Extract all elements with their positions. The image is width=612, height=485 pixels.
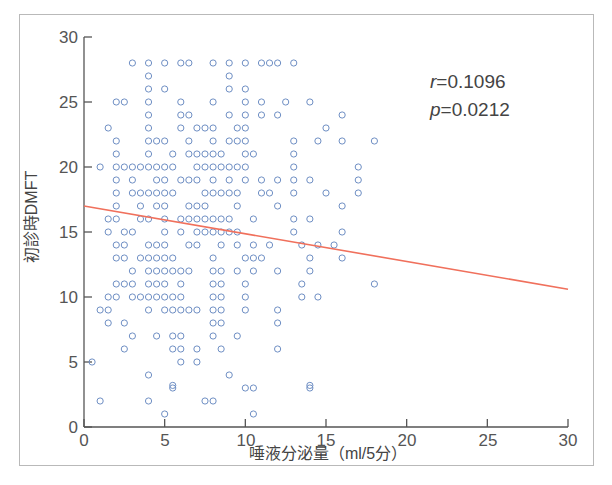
data-point — [307, 177, 313, 183]
data-point — [145, 125, 151, 131]
data-point — [186, 177, 192, 183]
data-point — [234, 203, 240, 209]
data-point — [275, 320, 281, 326]
data-point — [339, 229, 345, 235]
data-point — [162, 164, 168, 170]
data-point — [162, 86, 168, 92]
data-point — [178, 99, 184, 105]
data-point — [154, 255, 160, 261]
data-point — [154, 177, 160, 183]
data-point — [162, 60, 168, 66]
data-point — [145, 281, 151, 287]
data-point — [145, 138, 151, 144]
data-point — [194, 164, 200, 170]
data-point — [105, 125, 111, 131]
data-point — [291, 60, 297, 66]
data-point — [315, 294, 321, 300]
data-point — [186, 268, 192, 274]
data-point — [178, 359, 184, 365]
data-point — [242, 281, 248, 287]
data-point — [154, 138, 160, 144]
data-point — [129, 60, 135, 66]
data-point — [242, 60, 248, 66]
data-point — [145, 255, 151, 261]
data-point — [162, 177, 168, 183]
data-point — [234, 242, 240, 248]
data-point — [162, 307, 168, 313]
r-value: =0.1096 — [436, 71, 505, 92]
data-point — [145, 294, 151, 300]
data-point — [242, 112, 248, 118]
data-point — [258, 112, 264, 118]
data-point — [170, 151, 176, 157]
y-tick-label: 25 — [38, 93, 78, 113]
data-point — [258, 255, 264, 261]
p-symbol: p — [430, 99, 441, 120]
data-point — [105, 229, 111, 235]
p-value: =0.0212 — [441, 99, 510, 120]
data-point — [170, 268, 176, 274]
data-point — [323, 125, 329, 131]
data-point — [210, 138, 216, 144]
data-point — [178, 229, 184, 235]
data-point — [162, 203, 168, 209]
data-point — [186, 138, 192, 144]
data-point — [315, 138, 321, 144]
data-point — [266, 190, 272, 196]
data-point — [170, 294, 176, 300]
data-point — [210, 294, 216, 300]
data-point — [339, 203, 345, 209]
data-point — [210, 190, 216, 196]
scatter-plot-canvas — [0, 0, 612, 485]
data-point — [162, 294, 168, 300]
y-axis-title: 初診時DMFT — [18, 142, 42, 292]
data-point — [266, 242, 272, 248]
data-point — [178, 346, 184, 352]
data-point — [162, 138, 168, 144]
data-point — [105, 294, 111, 300]
data-point — [331, 242, 337, 248]
statistics-annotation: r=0.1096 p=0.0212 — [430, 68, 510, 123]
data-point — [234, 125, 240, 131]
data-point — [202, 398, 208, 404]
data-point — [218, 294, 224, 300]
data-point — [129, 281, 135, 287]
data-point — [113, 294, 119, 300]
data-point — [129, 294, 135, 300]
data-point — [210, 60, 216, 66]
data-point — [113, 164, 119, 170]
data-point — [210, 125, 216, 131]
data-point — [113, 281, 119, 287]
data-point — [226, 60, 232, 66]
data-point — [250, 151, 256, 157]
data-point — [210, 281, 216, 287]
data-point — [242, 307, 248, 313]
data-point — [226, 73, 232, 79]
data-point — [226, 177, 232, 183]
data-point — [186, 307, 192, 313]
data-point — [154, 203, 160, 209]
data-point — [355, 177, 361, 183]
data-point — [194, 359, 200, 365]
data-point — [250, 255, 256, 261]
data-point — [186, 216, 192, 222]
data-point — [194, 151, 200, 157]
data-point — [186, 203, 192, 209]
data-point — [339, 138, 345, 144]
data-point — [170, 333, 176, 339]
data-point — [291, 177, 297, 183]
data-point — [242, 164, 248, 170]
data-point — [154, 268, 160, 274]
data-point — [307, 268, 313, 274]
data-point — [154, 242, 160, 248]
data-point — [275, 60, 281, 66]
data-point — [194, 177, 200, 183]
data-point — [250, 411, 256, 417]
data-point — [113, 177, 119, 183]
y-tick-label: 5 — [38, 353, 78, 373]
data-point — [226, 112, 232, 118]
data-point — [299, 294, 305, 300]
data-point — [178, 281, 184, 287]
data-point — [210, 164, 216, 170]
data-point — [258, 99, 264, 105]
